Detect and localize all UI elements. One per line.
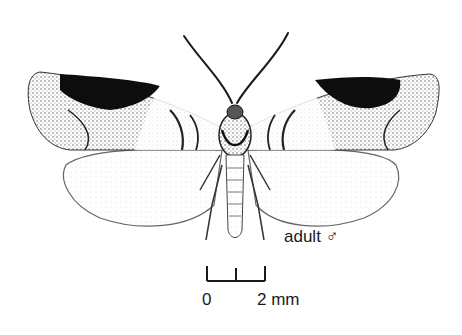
moth-illustration bbox=[0, 0, 462, 335]
moth-body bbox=[219, 105, 251, 238]
scale-start-label: 0 bbox=[202, 291, 211, 308]
antennae bbox=[184, 33, 288, 103]
scale-bar bbox=[207, 266, 265, 281]
right-hindwing bbox=[248, 149, 399, 226]
scale-end-label: 2 mm bbox=[257, 291, 300, 308]
left-hindwing bbox=[64, 149, 222, 226]
right-forewing bbox=[248, 74, 439, 150]
figure-caption: adult ♂ bbox=[284, 228, 338, 245]
left-forewing bbox=[28, 72, 222, 150]
